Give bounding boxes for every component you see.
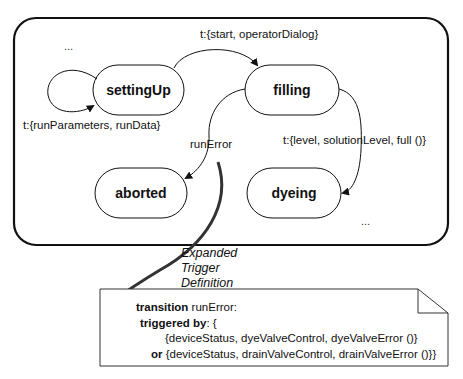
keyword-transition: transition	[136, 301, 188, 313]
callout-line-3: Definition	[181, 276, 237, 291]
state-label-dyeing: dyeing	[247, 186, 341, 200]
self-loop-transition[interactable]	[48, 70, 97, 112]
ellipsis-top: ...	[64, 40, 73, 52]
note-line-2: triggered by: {	[136, 316, 436, 332]
note-line-2-rest: : {	[206, 317, 216, 329]
state-label-filling: filling	[245, 83, 339, 97]
note-line-1: transition runError:	[136, 300, 436, 316]
label-runError: runError	[190, 139, 232, 151]
state-label-aborted: aborted	[95, 186, 187, 200]
note-line-1-rest: runError:	[188, 301, 237, 313]
label-level-solution: t:{level, solutionLevel, full ()}	[283, 135, 426, 147]
label-start-operatorDialog: t:{start, operatorDialog}	[200, 29, 318, 41]
callout-line-2: Trigger	[181, 261, 237, 276]
keyword-or: or	[151, 348, 163, 360]
ellipsis-bottom: ...	[361, 215, 370, 227]
state-label-settingUp: settingUp	[93, 83, 184, 97]
note-line-4-rest: {deviceStatus, drainValveControl, drainV…	[163, 348, 437, 360]
transition-setting-to-filling[interactable]	[174, 50, 257, 68]
note-content: transition runError: triggered by: { {de…	[136, 300, 436, 362]
superstate-frame	[14, 18, 448, 245]
transition-runError[interactable]	[186, 89, 245, 178]
keyword-triggered-by: triggered by	[140, 317, 206, 329]
label-self-loop: t:{runParameters, runData}	[23, 120, 160, 132]
callout-text: Expanded Trigger Definition	[181, 246, 237, 291]
note-line-4: or {deviceStatus, drainValveControl, dra…	[136, 347, 436, 363]
callout-line-1: Expanded	[181, 246, 237, 261]
note-line-3: {deviceStatus, dyeValveControl, dyeValve…	[136, 331, 436, 347]
